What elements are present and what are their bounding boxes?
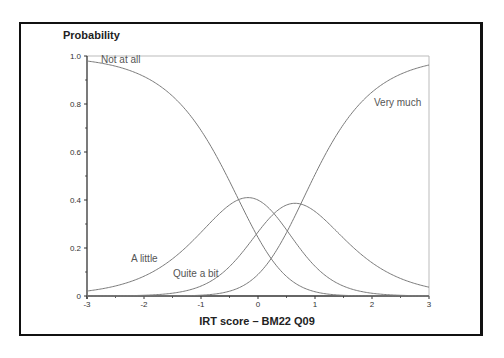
- y-tick-label: 0.6: [70, 148, 82, 157]
- label-a-little: A little: [131, 253, 158, 264]
- label-quite-a-bit: Quite a bit: [173, 268, 219, 279]
- curve-quite-a-bit: [87, 203, 429, 296]
- x-tick-label: -2: [140, 300, 148, 309]
- y-tick-label: 0.2: [70, 244, 82, 253]
- axes: 00.20.40.60.81.0-3-2-10123: [70, 52, 432, 309]
- x-tick-label: -1: [197, 300, 205, 309]
- label-not-at-all: Not at all: [101, 54, 140, 65]
- label-very-much: Very much: [374, 97, 421, 108]
- x-tick-label: 0: [256, 300, 261, 309]
- y-tick-label: 0.4: [70, 196, 82, 205]
- x-tick-label: -3: [83, 300, 91, 309]
- x-tick-label: 2: [370, 300, 375, 309]
- x-tick-label: 1: [313, 300, 318, 309]
- curve-a-little: [87, 198, 429, 296]
- y-tick-label: 0: [77, 292, 82, 301]
- x-tick-label: 3: [427, 300, 432, 309]
- y-tick-label: 1.0: [70, 52, 82, 61]
- chart-plot: 00.20.40.60.81.0-3-2-10123 Not at all A …: [0, 0, 504, 358]
- y-tick-label: 0.8: [70, 100, 82, 109]
